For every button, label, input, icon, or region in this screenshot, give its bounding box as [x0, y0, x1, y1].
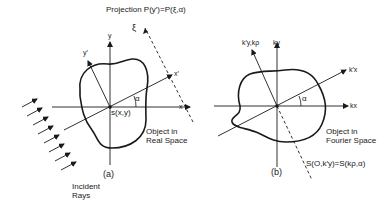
x-prime-axis-label: x′ [174, 70, 179, 77]
kx-axis-label: kx [350, 102, 357, 109]
incident-rays-label: Incident Rays [72, 182, 100, 200]
x-axis-label: x [179, 103, 183, 110]
projection-line [145, 28, 193, 122]
y-prime-axis [88, 61, 110, 107]
object-real-space [80, 59, 148, 148]
ky-prime-kp-label: k′y,kρ [242, 39, 259, 46]
object-real-space-label: Object in Real Space [146, 127, 187, 145]
incident-rays [22, 99, 76, 170]
y-prime-axis-label: y′ [83, 49, 88, 56]
angle-label-a: α [135, 95, 140, 103]
projection-label: Projection P(y′)=P(ξ,α) [106, 6, 186, 14]
ky-axis-label: ky [273, 39, 280, 46]
fourier-slice-diagram: Projection P(y′)=P(ξ,α) ξ y y′ x′ x α s(… [0, 0, 391, 206]
angle-label-b: α [302, 95, 307, 103]
y-axis-label: y [108, 32, 112, 39]
panel-a-caption: (a) [103, 170, 114, 179]
panel-a [22, 28, 193, 170]
ky-prime-axis [252, 50, 277, 106]
diagram-drawing [0, 0, 391, 206]
object-fourier-space-label: Object in Fourier Space [326, 127, 376, 145]
slice-line [277, 106, 312, 180]
kx-prime-axis-label: k′x [349, 66, 357, 73]
fourier-slice-label: S(O,k′y)=S(kρ,α) [306, 160, 365, 168]
angle-arc-b [299, 96, 301, 106]
object-function-label: s(x,y) [111, 109, 131, 117]
panel-b-caption: (b) [271, 168, 282, 177]
xi-label: ξ [132, 24, 136, 33]
